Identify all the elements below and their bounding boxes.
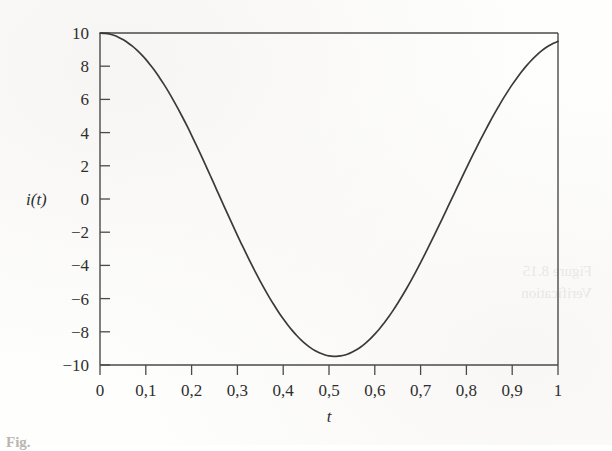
x-tick-label: 0,6 bbox=[364, 381, 385, 400]
y-axis-ticks bbox=[100, 33, 110, 365]
x-tick-label: 0,4 bbox=[273, 381, 295, 400]
x-axis-tick-labels: 0 0,1 0,2 0,3 0,4 0,5 0,6 0,7 0,8 0,9 1 bbox=[96, 381, 563, 400]
data-series-line bbox=[100, 33, 558, 356]
y-tick-label: 6 bbox=[81, 90, 90, 109]
bleed-through-text: Figure 8.15 Verification bbox=[521, 263, 592, 301]
y-tick-label: 4 bbox=[81, 124, 90, 143]
x-axis-label: t bbox=[327, 407, 333, 426]
x-axis-ticks bbox=[100, 365, 558, 375]
y-tick-label: −8 bbox=[71, 323, 89, 342]
y-tick-label: 10 bbox=[72, 24, 89, 43]
x-tick-label: 0,1 bbox=[135, 381, 156, 400]
y-axis-label: i(t) bbox=[26, 190, 47, 209]
x-tick-label: 0,8 bbox=[456, 381, 477, 400]
y-tick-label: −10 bbox=[62, 356, 89, 375]
y-tick-label: 8 bbox=[81, 57, 90, 76]
y-tick-label: −2 bbox=[71, 223, 89, 242]
x-tick-label: 0 bbox=[96, 381, 105, 400]
y-axis-tick-labels: 10 8 6 4 2 0 −2 −4 −6 −8 −10 bbox=[62, 24, 89, 375]
y-tick-label: 0 bbox=[81, 190, 90, 209]
x-tick-label: 0,2 bbox=[181, 381, 202, 400]
x-tick-label: 1 bbox=[554, 381, 563, 400]
y-tick-label: −6 bbox=[71, 290, 89, 309]
x-tick-label: 0,3 bbox=[227, 381, 248, 400]
svg-text:Verification: Verification bbox=[521, 285, 592, 301]
y-tick-label: −4 bbox=[71, 256, 90, 275]
x-tick-label: 0,9 bbox=[502, 381, 523, 400]
figure-caption-fragment: Fig. bbox=[6, 434, 31, 451]
x-tick-label: 0,7 bbox=[410, 381, 432, 400]
plot-frame bbox=[100, 33, 558, 365]
y-tick-label: 2 bbox=[81, 157, 90, 176]
x-tick-label: 0,5 bbox=[318, 381, 339, 400]
